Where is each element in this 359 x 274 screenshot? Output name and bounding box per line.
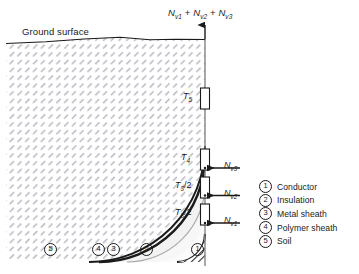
label-T3-upper: T3/2 [175,181,192,192]
label-Nv1: Nv1 [224,216,237,227]
ground-surface-label: Ground surface [22,27,89,37]
label-T3-lower-den: /2 [184,207,192,217]
label-T3-upper-den: /2 [184,180,192,190]
label-T3-lower: T3/2 [175,208,192,219]
callout-4: 4 [92,243,105,256]
label-T5: T5 [183,92,192,103]
resistor-T5 [201,88,210,109]
legend-num-3: 3 [259,207,272,220]
legend-num-5: 5 [259,235,272,248]
label-Nv2-sub: v2 [231,193,238,200]
eq-term-3-sub: v3 [225,13,232,20]
callout-5: 5 [44,243,57,256]
label-T4: T4 [181,153,190,164]
legend-label-4: Polymer sheath [277,223,337,233]
figure-canvas: Ground surface Nv1 + Nv2 + Nv3 T5 T4 T3/… [0,0,359,274]
label-T5-sub: 5 [189,96,193,103]
legend-num-2: 2 [259,194,272,207]
label-T4-sub: 4 [187,157,191,164]
legend-item-soil: 5 Soil [259,234,357,248]
legend-item-polymer-sheath: 4 Polymer sheath [259,221,357,235]
legend-label-3: Metal sheath [277,209,327,219]
eq-term-1-sub: v1 [175,13,182,20]
label-Nv3: Nv3 [224,161,237,172]
legend-num-1: 1 [259,180,272,193]
legend-label-5: Soil [277,236,292,246]
eq-plus-2: + [207,7,218,18]
legend-num-4: 4 [259,221,272,234]
legend-item-insulation: 2 Insulation [259,194,357,208]
resistor-symbols [201,88,210,225]
callout-3: 3 [107,243,120,256]
callout-1: 1 [191,243,204,256]
label-Nv2: Nv2 [224,189,237,200]
callout-2: 2 [140,243,153,256]
label-Nv1-sub: v1 [231,220,238,227]
eq-plus-1: + [182,7,193,18]
legend-item-metal-sheath: 3 Metal sheath [259,207,357,221]
label-Nv3-sub: v3 [231,165,238,172]
total-heat-equation: Nv1 + Nv2 + Nv3 [168,8,232,20]
legend-label-1: Conductor [277,182,317,192]
legend-label-2: Insulation [277,195,314,205]
legend: 1 Conductor 2 Insulation 3 Metal sheath … [259,180,357,248]
eq-term-1-symbol: N [168,7,175,18]
legend-item-conductor: 1 Conductor [259,180,357,194]
